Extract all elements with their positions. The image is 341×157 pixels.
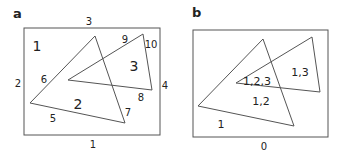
edge-label-rect-bottom: 1 xyxy=(90,139,96,150)
region-label-overlap-b: 1,2,3 xyxy=(243,75,271,88)
panel-b-label: b xyxy=(192,5,201,20)
edge-label-tri1-left: 6 xyxy=(41,74,47,85)
edge-label-rect-top: 3 xyxy=(86,16,92,27)
region-label-outside: 1 xyxy=(33,38,42,54)
edge-label-tri2-right: 10 xyxy=(145,39,158,50)
panel-b: b 0 1 1,2 1,2,3 1,3 xyxy=(192,5,328,152)
edge-label-tri1-right: 7 xyxy=(125,107,131,118)
region-label-outside-tri-b: 1 xyxy=(218,118,225,131)
region-label-tri1-b: 1,2 xyxy=(252,95,270,108)
edge-label-rect-bottom-b: 0 xyxy=(261,141,267,152)
edge-label-rect-left: 2 xyxy=(15,78,21,89)
region-label-tri2: 3 xyxy=(130,58,139,74)
edge-label-tri1-bottom: 5 xyxy=(50,113,56,124)
diagram-canvas: a 3 2 4 1 6 5 7 9 10 8 1 2 3 b 0 1 1,2 1… xyxy=(0,0,341,157)
panel-a: a 3 2 4 1 6 5 7 9 10 8 1 2 3 xyxy=(13,6,168,150)
region-label-tri2-b: 1,3 xyxy=(291,66,309,79)
edge-label-tri2-top: 9 xyxy=(122,34,128,45)
panel-a-triangle-2 xyxy=(68,34,152,90)
edge-label-rect-right: 4 xyxy=(162,80,168,91)
edge-label-tri2-bottom: 8 xyxy=(138,92,144,103)
panel-a-label: a xyxy=(13,6,22,21)
region-label-tri1: 2 xyxy=(74,96,83,112)
